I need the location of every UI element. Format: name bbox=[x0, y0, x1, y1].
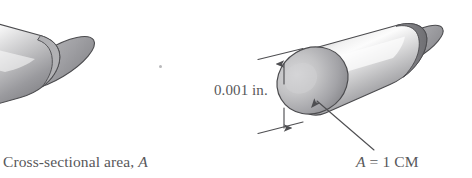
label-area-equation: = 1 CM bbox=[370, 153, 419, 170]
label-area-equals-one-circular-mil: A = 1 CM bbox=[356, 154, 419, 170]
figure-circular-mil: Cross-sectional area, A A = 1 CM 0.001 i… bbox=[0, 0, 472, 178]
label-cross-sectional-area: Cross-sectional area, A bbox=[3, 154, 148, 170]
left-cylinder bbox=[0, 8, 102, 120]
dimension-extension-bottom bbox=[258, 122, 303, 134]
right-cylinder bbox=[264, 18, 448, 128]
label-cross-sectional-area-text: Cross-sectional area, bbox=[3, 153, 134, 170]
label-area-symbol: A bbox=[356, 153, 366, 170]
area-leader-line bbox=[317, 101, 374, 150]
print-speck bbox=[159, 65, 162, 68]
label-cross-sectional-area-symbol: A bbox=[138, 153, 148, 170]
label-diameter-value: 0.001 in. bbox=[214, 83, 268, 98]
